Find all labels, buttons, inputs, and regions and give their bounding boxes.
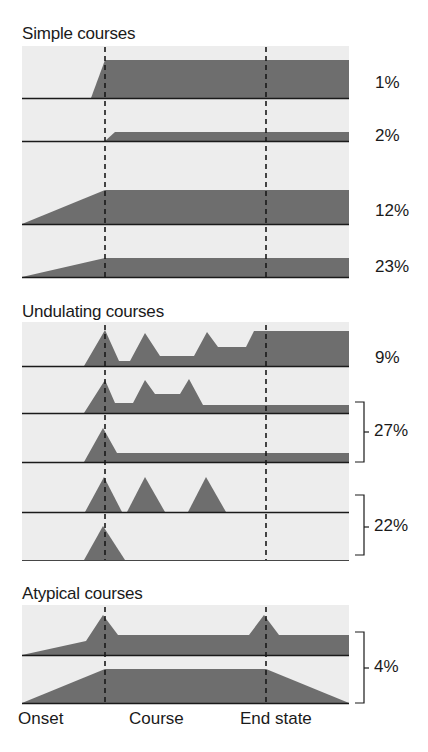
- axis-label-onset: Onset: [18, 709, 63, 729]
- percent-label: 22%: [374, 516, 408, 536]
- bracket-27: [355, 402, 364, 462]
- percent-label: 27%: [374, 421, 408, 441]
- simple-course-1: [91, 60, 349, 98]
- course-diagram: [0, 0, 428, 752]
- percent-label: 12%: [375, 201, 409, 221]
- percent-label: 23%: [375, 257, 409, 277]
- axis-label-course: Course: [129, 709, 184, 729]
- percent-label: 2%: [375, 126, 400, 146]
- axis-label-end-state: End state: [240, 709, 312, 729]
- percent-label: 1%: [375, 73, 400, 93]
- bracket-22: [355, 495, 364, 555]
- percent-label: 4%: [374, 657, 399, 677]
- simple-course-2: [105, 132, 349, 141]
- bracket-4: [355, 632, 364, 703]
- percent-label: 9%: [375, 348, 400, 368]
- section-title-simple: Simple courses: [22, 24, 135, 44]
- section-title-undulating: Undulating courses: [22, 302, 164, 322]
- section-title-atypical: Atypical courses: [22, 584, 143, 604]
